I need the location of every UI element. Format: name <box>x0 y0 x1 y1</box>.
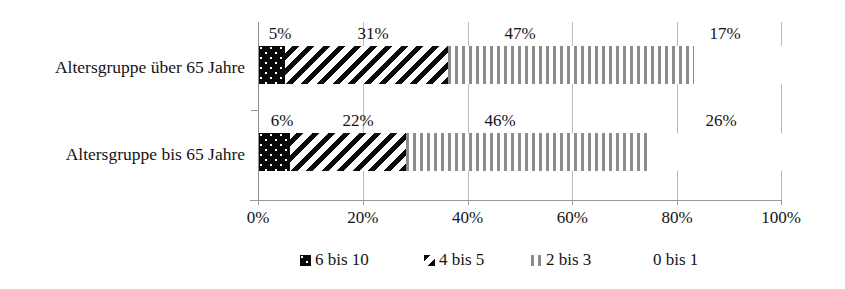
x-axis-tick-80 <box>677 200 678 205</box>
value-label-4-bis-5: 22% <box>342 111 373 131</box>
y-axis-tick-mid <box>251 110 258 111</box>
value-label-6-bis-10: 5% <box>269 24 292 44</box>
bar-segment-4-bis-5 <box>290 133 405 171</box>
legend-item-0-bis-1[interactable]: 0 bis 1 <box>638 250 698 270</box>
plot-area: 5% 31% 47% 17% 6% 22% 46% 26% 0% 20% 40%… <box>258 22 782 200</box>
bar-segment-2-bis-3 <box>448 46 694 84</box>
x-axis-tick-60 <box>572 200 573 205</box>
bar-segment-2-bis-3 <box>406 133 647 171</box>
stacked-bar-chart: Altersgruppe über 65 Jahre Altersgruppe … <box>0 0 845 289</box>
legend-label: 0 bis 1 <box>653 250 698 270</box>
legend-label: 6 bis 10 <box>315 250 369 270</box>
legend: 6 bis 10 4 bis 5 2 bis 3 0 bis 1 <box>300 250 720 274</box>
x-axis-tick-0 <box>258 200 259 205</box>
x-axis-tick-20 <box>363 200 364 205</box>
x-tick-label-60: 60% <box>557 208 588 228</box>
bar-segment-6-bis-10 <box>259 46 285 84</box>
x-tick-label-80: 80% <box>662 208 693 228</box>
value-label-2-bis-3: 46% <box>484 111 515 131</box>
x-axis-tick-100 <box>781 200 782 205</box>
legend-label: 2 bis 3 <box>546 250 591 270</box>
value-label-6-bis-10: 6% <box>271 111 294 131</box>
category-label-ueber-65: Altersgruppe über 65 Jahre <box>0 58 245 77</box>
x-tick-label-100: 100% <box>761 208 801 228</box>
value-label-4-bis-5: 31% <box>357 24 388 44</box>
value-label-2-bis-3: 47% <box>504 24 535 44</box>
x-tick-label-40: 40% <box>452 208 483 228</box>
bar-segment-0-bis-1 <box>694 46 783 84</box>
legend-swatch-vertical-icon <box>531 255 542 266</box>
bar-segment-0-bis-1 <box>647 133 783 171</box>
x-axis-tick-40 <box>468 200 469 205</box>
x-axis-line <box>250 200 782 201</box>
legend-item-2-bis-3[interactable]: 2 bis 3 <box>531 250 591 270</box>
legend-swatch-blank-icon <box>638 255 649 266</box>
category-label-bis-65: Altersgruppe bis 65 Jahre <box>0 145 245 164</box>
legend-swatch-diagonal-icon <box>424 255 435 266</box>
legend-label: 4 bis 5 <box>439 250 484 270</box>
legend-item-4-bis-5[interactable]: 4 bis 5 <box>424 250 484 270</box>
legend-swatch-dots-icon <box>300 255 311 266</box>
x-tick-label-20: 20% <box>347 208 378 228</box>
x-tick-label-0: 0% <box>247 208 270 228</box>
value-label-0-bis-1: 26% <box>705 111 736 131</box>
bar-segment-4-bis-5 <box>285 46 447 84</box>
value-label-0-bis-1: 17% <box>709 24 740 44</box>
bar-segment-6-bis-10 <box>259 133 290 171</box>
legend-item-6-bis-10[interactable]: 6 bis 10 <box>300 250 369 270</box>
